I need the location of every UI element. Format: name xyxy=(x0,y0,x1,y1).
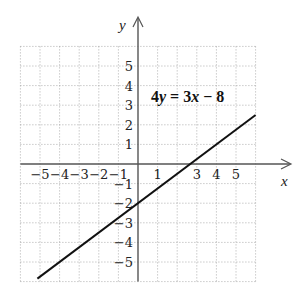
axes xyxy=(20,17,291,282)
plot-line xyxy=(37,115,255,279)
y-tick-label: 2 xyxy=(125,118,133,133)
series-line xyxy=(37,115,255,279)
x-axis-label: x xyxy=(280,173,288,189)
y-tick-label: −1 xyxy=(114,177,133,192)
x-tick-label: 1 xyxy=(153,167,161,182)
y-tick-label: −5 xyxy=(114,255,133,270)
y-axis-label: y xyxy=(117,17,126,33)
coordinate-plane: −5−4−3−2−1134554321−1−2−3−4−5 x y 4y = 3… xyxy=(0,0,297,296)
x-tick-label: −4 xyxy=(50,167,69,182)
y-tick-label: 4 xyxy=(125,79,133,94)
x-tick-label: 3 xyxy=(193,167,201,182)
y-tick-label: −4 xyxy=(114,235,133,250)
x-tick-label: 4 xyxy=(212,167,220,182)
x-tick-label: −5 xyxy=(30,167,49,182)
y-tick-label: 1 xyxy=(125,137,133,152)
x-tick-label: 5 xyxy=(232,167,240,182)
y-tick-label: 3 xyxy=(125,98,133,113)
x-tick-label: −2 xyxy=(89,167,108,182)
equation-annotation: 4y = 3x − 8 xyxy=(151,88,224,106)
y-tick-label: 5 xyxy=(125,59,133,74)
x-tick-label: −3 xyxy=(70,167,89,182)
